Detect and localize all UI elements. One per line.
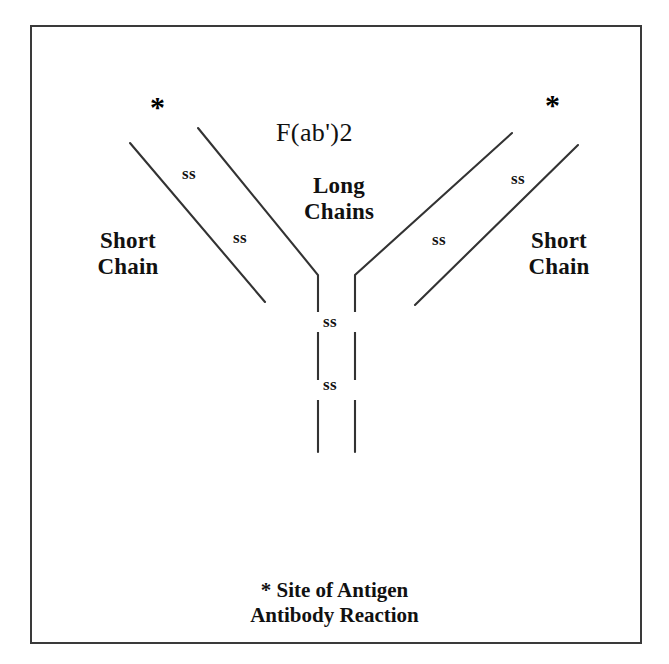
ss-left-upper-label: ss xyxy=(182,164,196,183)
asterisk-left-icon: * xyxy=(150,92,165,122)
short-chain-right-label: Short Chain xyxy=(503,228,615,280)
ss-stem-lower-label: ss xyxy=(323,375,337,394)
short-chain-left-label: Short Chain xyxy=(72,228,184,280)
long-chains-label: Long Chains xyxy=(291,173,387,225)
diagram-page: * * F(ab')2 Long Chains Short Chain Shor… xyxy=(0,0,669,664)
asterisk-right-icon: * xyxy=(545,90,560,120)
ss-right-upper-label: ss xyxy=(511,169,525,188)
fab2-label: F(ab')2 xyxy=(276,118,353,147)
antibody-line-art xyxy=(0,0,669,664)
figure-caption: * Site of Antigen Antibody Reaction xyxy=(0,578,669,628)
ss-left-lower-label: ss xyxy=(233,228,247,247)
ss-stem-upper-label: ss xyxy=(323,312,337,331)
ss-right-lower-label: ss xyxy=(432,230,446,249)
short-chain-right-line xyxy=(415,145,578,305)
